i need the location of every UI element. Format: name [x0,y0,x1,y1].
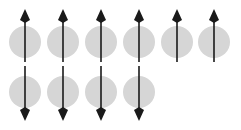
spin-lattice-canvas [0,0,241,130]
figure-background [0,0,241,130]
spin-lattice-figure [0,0,241,130]
